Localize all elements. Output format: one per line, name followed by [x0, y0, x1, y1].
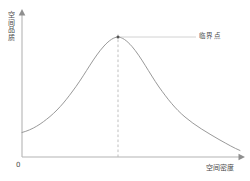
- y-axis-arrowhead: [19, 9, 26, 16]
- x-axis-arrowhead: [239, 154, 246, 161]
- origin-label: 0: [16, 162, 20, 170]
- chart-screenshot: 空间品质 空间密度 0 临界点: [0, 0, 250, 181]
- x-axis-label: 空间密度: [206, 165, 234, 173]
- y-axis-label: 空间品质: [4, 11, 14, 41]
- critical-point-marker: [117, 36, 120, 39]
- critical-point-annotation-label: 临界点: [199, 33, 221, 40]
- chart-plot-area: [0, 0, 250, 181]
- quality-density-curve: [22, 37, 240, 151]
